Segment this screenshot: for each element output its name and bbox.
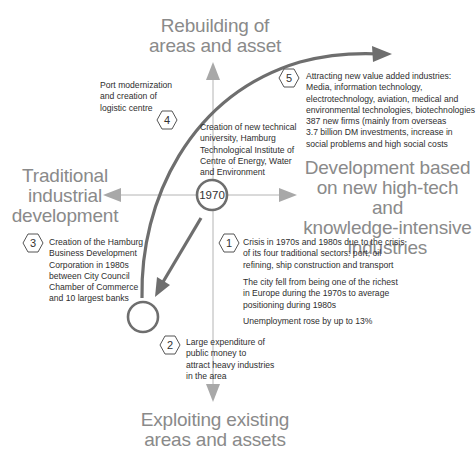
step-3-text: Creation of the Hamburg Business Develop… — [49, 237, 179, 305]
trajectory-arrowhead-icon — [372, 46, 392, 62]
step-1-detail-2: Unemployment rose by up to 13% — [243, 316, 463, 327]
step-1-text: Crisis in 1970s and 1980s due to the cri… — [243, 237, 463, 271]
axis-label-bottom: Exploiting existing areas and assets — [130, 410, 300, 450]
step-2-number: 2 — [160, 336, 180, 354]
step-3-number: 3 — [23, 234, 43, 252]
arrow-right-icon — [279, 188, 297, 202]
origin-year-label: 1970 — [197, 188, 227, 202]
step-1-number: 1 — [219, 234, 239, 252]
axis-label-left: Traditional industrial development — [5, 166, 125, 226]
step-4-side-note: Port modernization and creation of logis… — [100, 80, 210, 114]
step-5-number: 5 — [279, 69, 299, 87]
low-point-circle — [128, 302, 158, 332]
axis-label-top: Rebuilding of areas and asset — [130, 16, 300, 56]
step-5-text: Attracting new value added industries: M… — [306, 71, 476, 150]
step-2-text: Large expenditure of public money to att… — [186, 337, 316, 382]
arrow-down-icon — [206, 384, 220, 402]
arrow-up-icon — [206, 62, 220, 80]
step-1-detail-1: The city fell from being one of the rich… — [243, 277, 463, 311]
